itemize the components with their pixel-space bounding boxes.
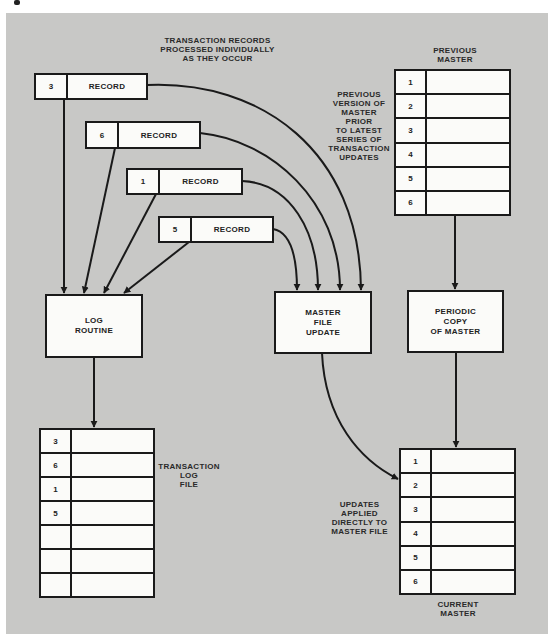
record-id: 1 (128, 170, 160, 193)
file-row: 6 (401, 571, 514, 593)
record-id: 5 (160, 218, 192, 241)
file-row: 1 (396, 71, 509, 95)
caption-current-master: CURRENT MASTER (428, 600, 488, 618)
file-row: 1 (401, 450, 514, 474)
file-row: 4 (401, 523, 514, 547)
record-label: RECORD (119, 123, 199, 147)
caption-previous-master: PREVIOUS MASTER (420, 46, 490, 64)
transaction-log-file: 3 6 1 5 (39, 428, 155, 598)
transaction-record-5: 5 RECORD (158, 216, 274, 243)
caption-updates-applied: UPDATES APPLIED DIRECTLY TO MASTER FILE (322, 500, 397, 536)
previous-master-file: 1 2 3 4 5 6 (394, 69, 511, 216)
record-label: RECORD (160, 170, 241, 193)
periodic-copy-box: PERIODIC COPY OF MASTER (407, 290, 504, 353)
master-file-update-box: MASTER FILE UPDATE (274, 291, 372, 354)
transaction-record-1: 1 RECORD (126, 168, 243, 195)
current-master-file: 1 2 3 4 5 6 (399, 448, 516, 595)
record-id: 3 (36, 75, 68, 98)
transaction-record-6: 6 RECORD (85, 121, 201, 149)
file-row: 2 (396, 95, 509, 119)
record-label: RECORD (192, 218, 272, 241)
file-row: 3 (396, 119, 509, 143)
file-row (41, 550, 153, 574)
transaction-record-3: 3 RECORD (34, 73, 148, 100)
file-row: 5 (396, 168, 509, 192)
file-row: 4 (396, 144, 509, 168)
file-row: 3 (401, 498, 514, 522)
log-routine-box: LOG ROUTINE (45, 294, 143, 358)
file-row: 3 (41, 430, 153, 454)
file-row (41, 574, 153, 596)
caption-previous-version-note: PREVIOUS VERSION OF MASTER PRIOR TO LATE… (328, 90, 390, 162)
caption-transaction-log-file: TRANSACTION LOG FILE (158, 462, 220, 489)
record-id: 6 (87, 123, 119, 147)
file-row: 5 (41, 502, 153, 526)
record-label: RECORD (68, 75, 146, 98)
file-row: 6 (41, 454, 153, 478)
caption-transaction-records: TRANSACTION RECORDS PROCESSED INDIVIDUAL… (160, 36, 275, 63)
file-row: 5 (401, 547, 514, 571)
file-row (41, 526, 153, 550)
file-row: 2 (401, 474, 514, 498)
file-row: 6 (396, 192, 509, 214)
file-row: 1 (41, 478, 153, 502)
